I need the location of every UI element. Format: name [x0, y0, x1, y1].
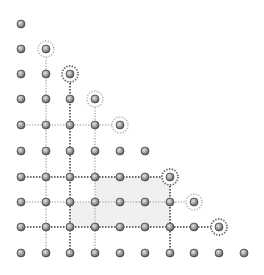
- lattice-node-dot: [116, 173, 124, 181]
- lattice-node-dot: [116, 223, 124, 231]
- lattice-node-dot: [42, 147, 50, 155]
- lattice-node-dot: [91, 95, 99, 103]
- lattice-node-dot: [190, 198, 198, 206]
- lattice-node-dot: [116, 198, 124, 206]
- lattice-node-dot: [42, 173, 50, 181]
- lattice-node-dot: [91, 198, 99, 206]
- lattice-node-dot: [215, 223, 223, 231]
- lattice-node-dot: [166, 223, 174, 231]
- lattice-node-dot: [141, 147, 149, 155]
- lattice-node-dot: [116, 147, 124, 155]
- lattice-node-dot: [141, 173, 149, 181]
- lattice-node-dot: [42, 45, 50, 53]
- lattice-node-dot: [215, 249, 223, 257]
- lattice-node-dot: [66, 249, 74, 257]
- lattice-node-dot: [17, 249, 25, 257]
- shaded-region: [95, 177, 170, 202]
- lattice-node-dot: [166, 249, 174, 257]
- lattice-node-dot: [141, 223, 149, 231]
- lattice-node-dot: [166, 198, 174, 206]
- lattice-node-dot: [17, 198, 25, 206]
- lattice-node-dot: [190, 249, 198, 257]
- lattice-node-dot: [91, 249, 99, 257]
- lattice-node-dot: [66, 223, 74, 231]
- lattice-node-dot: [141, 249, 149, 257]
- lattice-node-dot: [91, 121, 99, 129]
- lattice-node-dot: [42, 223, 50, 231]
- lattice-node-dot: [116, 121, 124, 129]
- lattice-node-dot: [141, 198, 149, 206]
- lattice-node-dot: [190, 223, 198, 231]
- lattice-node-dot: [66, 70, 74, 78]
- lattice-node-dot: [42, 70, 50, 78]
- lattice-node-dot: [42, 198, 50, 206]
- lattice-node-dot: [91, 173, 99, 181]
- lattice-node-dot: [42, 249, 50, 257]
- lattice-node-dot: [17, 173, 25, 181]
- lattice-node-dot: [91, 223, 99, 231]
- lattice-node-dot: [42, 95, 50, 103]
- lattice-node-dot: [17, 147, 25, 155]
- lattice-node-dot: [116, 249, 124, 257]
- lattice-node-dot: [17, 95, 25, 103]
- lattice-node-dot: [66, 147, 74, 155]
- lattice-node-dot: [66, 173, 74, 181]
- lattice-node-dot: [166, 173, 174, 181]
- lattice-node-dot: [17, 20, 25, 28]
- lattice-node-dot: [17, 70, 25, 78]
- lattice-node-dot: [42, 121, 50, 129]
- lattice-node-dot: [17, 121, 25, 129]
- lattice-node-dot: [66, 198, 74, 206]
- lattice-node-dot: [66, 121, 74, 129]
- lattice-diagram: [0, 0, 264, 275]
- lattice-node-dot: [91, 147, 99, 155]
- lattice-node-dot: [17, 45, 25, 53]
- lattice-node-dot: [240, 249, 248, 257]
- lattice-node-dot: [66, 95, 74, 103]
- lattice-node-dot: [17, 223, 25, 231]
